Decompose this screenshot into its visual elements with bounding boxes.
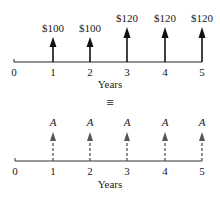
top-arrow-4 [162, 27, 169, 62]
top-timeline: $100 $100 $120 $120 $120 0 1 2 3 4 5 Yea… [11, 12, 213, 90]
top-axis-title: Years [98, 78, 123, 90]
top-tick-label-2: 2 [87, 66, 93, 78]
bottom-amount-1: A [49, 116, 57, 128]
top-tick-label-1: 1 [50, 66, 56, 78]
bottom-amount-4: A [161, 116, 169, 128]
bottom-arrow-4 [162, 132, 168, 161]
bottom-arrow-3 [124, 132, 130, 161]
top-arrow-3 [124, 27, 131, 62]
top-arrow-2 [87, 37, 94, 62]
bottom-tick-label-2: 2 [87, 165, 93, 177]
top-amount-2: $100 [79, 22, 102, 34]
bottom-amount-3: A [123, 116, 131, 128]
top-amount-1: $100 [42, 22, 65, 34]
top-tick-label-4: 4 [162, 66, 168, 78]
bottom-axis-title: Years [98, 178, 123, 190]
top-tick-label-0: 0 [11, 66, 17, 78]
bottom-timeline: A A A A A 0 1 2 3 4 5 Years [12, 116, 205, 190]
bottom-tick-label-5: 5 [199, 165, 205, 177]
cash-flow-diagram: $100 $100 $120 $120 $120 0 1 2 3 4 5 Yea… [0, 0, 220, 200]
top-amount-3: $120 [116, 12, 139, 24]
bottom-arrow-1 [50, 132, 56, 161]
top-amount-4: $120 [154, 12, 177, 24]
top-amount-5: $120 [191, 12, 214, 24]
bottom-tick-label-4: 4 [162, 165, 168, 177]
bottom-tick-label-1: 1 [50, 165, 56, 177]
bottom-amount-5: A [198, 116, 206, 128]
equivalence-symbol: ≡ [106, 95, 113, 110]
bottom-arrow-5 [199, 132, 205, 161]
top-arrow-5 [199, 27, 206, 62]
bottom-tick-label-0: 0 [12, 165, 18, 177]
top-arrow-1 [50, 37, 57, 62]
top-tick-label-5: 5 [199, 66, 205, 78]
bottom-amount-2: A [86, 116, 94, 128]
bottom-arrow-2 [87, 132, 93, 161]
bottom-tick-label-3: 3 [124, 165, 130, 177]
top-tick-label-3: 3 [124, 66, 130, 78]
